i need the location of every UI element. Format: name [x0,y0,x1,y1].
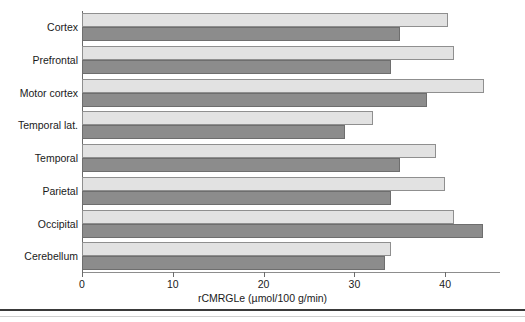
tick-mark [264,272,265,277]
category-label: Temporal [0,153,78,164]
bar [82,191,391,205]
category-axis-labels: CortexPrefrontalMotor cortexTemporal lat… [0,11,78,273]
bar [82,13,448,27]
bar [82,177,445,191]
tick-mark [82,272,83,277]
tick-label: 10 [158,278,188,290]
bar [82,158,400,172]
tick-label: 40 [430,278,460,290]
bar [82,79,484,93]
chart-plot-area: CortexPrefrontalMotor cortexTemporal lat… [0,0,525,322]
tick-mark [445,272,446,277]
bar [82,27,400,41]
bars-layer [82,11,512,273]
figure: CortexPrefrontalMotor cortexTemporal lat… [0,0,525,322]
footer-rule-thin [0,316,525,317]
bar [82,60,391,74]
tick-label: 0 [67,278,97,290]
bar [82,46,454,60]
footer-rule-thick [0,309,525,311]
bar [82,256,385,270]
bar [82,125,345,139]
bar [82,224,483,238]
category-label: Temporal lat. [0,120,78,131]
category-label: Cerebellum [0,251,78,262]
category-label: Occipital [0,219,78,230]
bar [82,242,391,256]
category-label: Parietal [0,186,78,197]
tick-mark [354,272,355,277]
bar [82,111,373,125]
bar [82,144,436,158]
tick-label: 20 [249,278,279,290]
category-label: Prefrontal [0,55,78,66]
x-axis-title: rCMRGLe (µmol/100 g/min) [0,292,525,304]
category-label: Motor cortex [0,88,78,99]
tick-label: 30 [339,278,369,290]
tick-mark [173,272,174,277]
bar [82,210,454,224]
bar [82,93,427,107]
category-label: Cortex [0,22,78,33]
